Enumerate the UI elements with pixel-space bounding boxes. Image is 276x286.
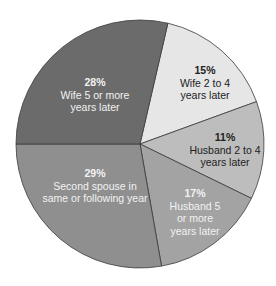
pct-wife-2-4: 15% xyxy=(160,64,250,77)
text-wife-5-plus: Wife 5 or more years later xyxy=(45,89,145,114)
text-husband-2-4: Husband 2 to 4 years later xyxy=(180,144,270,169)
pct-wife-5-plus: 28% xyxy=(45,76,145,89)
pct-second-spouse: 29% xyxy=(30,167,160,180)
slice-second-spouse xyxy=(16,144,162,268)
label-wife-5-plus: 28% Wife 5 or more years later xyxy=(45,76,145,114)
label-husband-2-4: 11% Husband 2 to 4 years later xyxy=(180,131,270,169)
pct-husband-5-plus: 17% xyxy=(155,187,235,200)
text-husband-5-plus: Husband 5 or more years later xyxy=(155,200,235,238)
text-wife-2-4: Wife 2 to 4 years later xyxy=(160,77,250,102)
label-second-spouse: 29% Second spouse in same or following y… xyxy=(30,167,160,205)
label-husband-5-plus: 17% Husband 5 or more years later xyxy=(155,187,235,237)
label-wife-2-4: 15% Wife 2 to 4 years later xyxy=(160,64,250,102)
text-second-spouse: Second spouse in same or following year xyxy=(30,180,160,205)
pct-husband-2-4: 11% xyxy=(180,131,270,144)
